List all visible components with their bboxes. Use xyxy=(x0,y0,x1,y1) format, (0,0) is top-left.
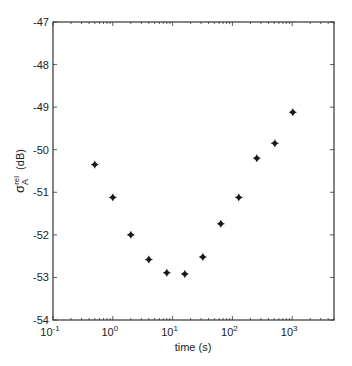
y-tick-label: -49 xyxy=(33,101,49,113)
svg-text:σrelA (dB): σrelA (dB) xyxy=(12,149,30,193)
plot-border xyxy=(53,22,334,320)
y-tick-label: -50 xyxy=(33,144,49,156)
plot-frame xyxy=(53,22,334,320)
y-tick-label: -52 xyxy=(33,229,49,241)
y-axis-label: σrelA (dB) xyxy=(12,149,30,193)
y-tick-label: -47 xyxy=(33,16,49,28)
y-tick-label: -48 xyxy=(33,59,49,71)
chart: 10-1100101102103 -47-48-49-50-51-52-53-5… xyxy=(0,0,352,366)
x-axis-label: time (s) xyxy=(175,341,212,353)
data-series xyxy=(91,108,297,277)
y-tick-label: -54 xyxy=(33,314,49,326)
y-tick-label: -53 xyxy=(33,271,49,283)
x-tick-label: 101 xyxy=(161,324,178,338)
x-tick-label: 100 xyxy=(101,324,118,338)
y-axis: -47-48-49-50-51-52-53-54 xyxy=(33,16,334,326)
x-tick-label: 10-1 xyxy=(40,324,60,338)
x-axis: 10-1100101102103 xyxy=(40,22,334,338)
y-tick-label: -51 xyxy=(33,186,49,198)
x-tick-label: 103 xyxy=(281,324,298,338)
x-tick-label: 102 xyxy=(221,324,238,338)
